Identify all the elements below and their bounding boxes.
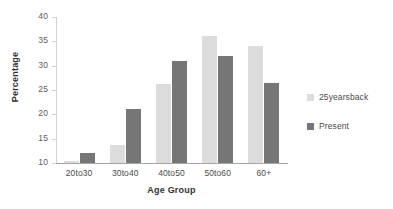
y-tick-mark bbox=[52, 163, 56, 164]
y-tick-label: 40 bbox=[24, 12, 48, 21]
y-axis-title: Percentage bbox=[10, 37, 20, 117]
y-tick-label: 15 bbox=[24, 134, 48, 143]
y-tick-label: 10 bbox=[24, 158, 48, 167]
chart-legend: 25yearsbackPresent bbox=[307, 92, 368, 131]
legend-swatch-icon bbox=[307, 123, 314, 130]
bar bbox=[80, 153, 95, 163]
plot-area bbox=[56, 17, 287, 163]
bar bbox=[248, 46, 263, 163]
x-axis-line bbox=[56, 163, 288, 164]
bar bbox=[64, 161, 79, 163]
bar-group bbox=[56, 17, 102, 163]
legend-label: Present bbox=[319, 121, 349, 131]
bar bbox=[218, 56, 233, 163]
bar bbox=[264, 83, 279, 163]
legend-item[interactable]: Present bbox=[307, 121, 368, 131]
y-tick-label: 35 bbox=[24, 36, 48, 45]
bar bbox=[172, 61, 187, 163]
bar-group bbox=[102, 17, 148, 163]
x-axis-title: Age Group bbox=[56, 185, 287, 195]
bar bbox=[202, 36, 217, 164]
y-tick-label: 30 bbox=[24, 61, 48, 70]
bar-chart: 40353025201510 Percentage 20to3030to4040… bbox=[0, 0, 393, 209]
bar bbox=[156, 84, 171, 163]
legend-swatch-icon bbox=[307, 94, 314, 101]
bar-group bbox=[148, 17, 194, 163]
y-tick-label: 25 bbox=[24, 85, 48, 94]
bar-group bbox=[241, 17, 287, 163]
bar-group bbox=[195, 17, 241, 163]
bar bbox=[110, 145, 125, 163]
bar bbox=[126, 109, 141, 163]
legend-item[interactable]: 25yearsback bbox=[307, 92, 368, 102]
legend-label: 25yearsback bbox=[319, 92, 368, 102]
y-tick-label: 20 bbox=[24, 109, 48, 118]
x-tick-label: 60+ bbox=[233, 168, 295, 178]
